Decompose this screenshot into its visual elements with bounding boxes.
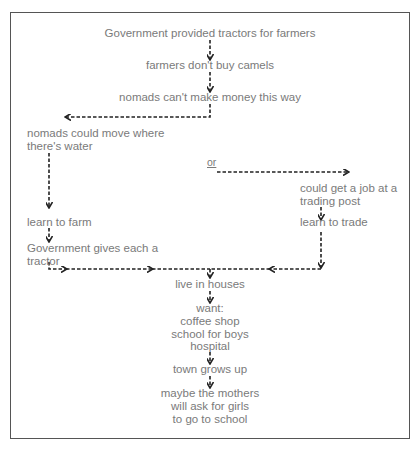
node-live-in-houses: live in houses — [175, 278, 245, 291]
node-nomads-cant-make-money: nomads can't make money this way — [119, 91, 301, 104]
node-nomads-move-line2: there's water — [27, 140, 92, 153]
node-job-trading-post-line1: could get a job at a — [300, 182, 397, 195]
node-learn-to-trade: learn to trade — [300, 216, 368, 229]
or-label: or — [207, 156, 216, 169]
node-want-hospital: hospital — [190, 340, 230, 353]
node-learn-to-farm: learn to farm — [27, 216, 92, 229]
node-government-provided-tractors: Government provided tractors for farmers — [105, 27, 316, 40]
node-farmers-dont-buy-camels: farmers don't buy camels — [146, 59, 274, 72]
node-mothers-line1: maybe the mothers — [161, 387, 259, 400]
arrow-n3-n4 — [66, 104, 210, 117]
node-mothers-line2: will ask for girls — [171, 400, 249, 413]
node-gov-gives-tractor-line1: Government gives each a — [27, 242, 158, 255]
node-want-coffee-shop: coffee shop — [180, 315, 239, 328]
node-want-label: want: — [196, 302, 224, 315]
node-gov-gives-tractor-line2: tractor — [27, 255, 60, 268]
node-nomads-move-line1: nomads could move where — [27, 127, 164, 140]
node-job-trading-post-line2: trading post — [300, 195, 360, 208]
node-mothers-line3: to go to school — [173, 413, 248, 426]
node-town-grows-up: town grows up — [173, 363, 247, 376]
